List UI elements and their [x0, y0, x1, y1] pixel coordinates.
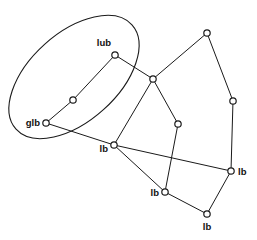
graph-node[interactable] [228, 168, 234, 174]
graph-node[interactable] [162, 189, 168, 195]
graph-canvas: lubglblblblblb [0, 0, 257, 240]
graph-node[interactable] [204, 211, 210, 217]
graph-node[interactable] [70, 97, 76, 103]
node-label: lb [151, 187, 160, 198]
graph-node[interactable] [204, 30, 210, 36]
node-label: lb [238, 166, 247, 177]
graph-edge [46, 100, 73, 123]
graph-edge [114, 145, 231, 171]
graph-edge [207, 171, 231, 214]
edges-layer [46, 33, 233, 214]
graph-edge [114, 79, 153, 145]
graph-edge [207, 33, 233, 101]
graph-node[interactable] [43, 120, 49, 126]
graph-edge [73, 55, 115, 100]
node-label: glb [26, 117, 40, 128]
graph-node[interactable] [150, 76, 156, 82]
graph-edge [153, 79, 178, 124]
graph-edge [165, 192, 207, 214]
graph-node[interactable] [112, 52, 118, 58]
nodes-layer [43, 30, 236, 217]
graph-node[interactable] [111, 142, 117, 148]
region-layer [0, 0, 161, 162]
graph-node[interactable] [175, 121, 181, 127]
bounding-ellipse [0, 0, 161, 162]
graph-edge [114, 145, 165, 192]
graph-edge [153, 33, 207, 79]
graph-node[interactable] [230, 98, 236, 104]
node-label: lub [97, 37, 111, 48]
node-label: lb [100, 143, 109, 154]
node-label: lb [203, 221, 212, 232]
graph-figure: lubglblblblblb [0, 0, 257, 240]
graph-edge [231, 101, 233, 171]
